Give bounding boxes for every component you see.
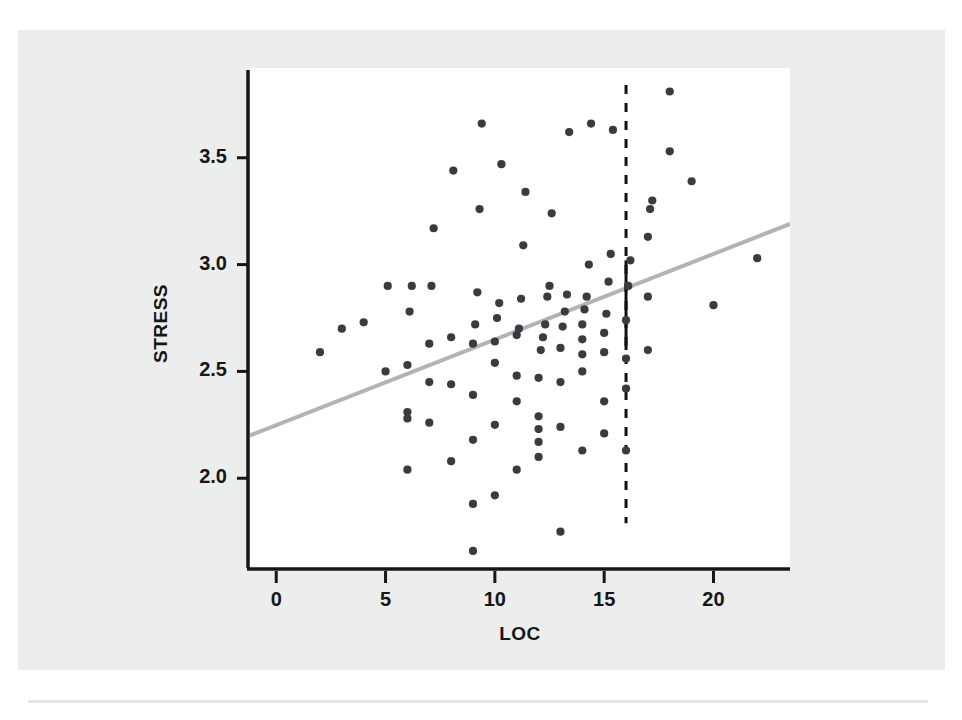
scatter-point [473, 288, 481, 296]
scatter-point [425, 340, 433, 348]
scatter-point [556, 344, 564, 352]
y-tick-label: 2.5 [135, 358, 227, 381]
scatter-point [513, 372, 521, 380]
scatter-point [548, 209, 556, 217]
scatter-point [384, 282, 392, 290]
scatter-point [406, 307, 414, 315]
scatter-point [556, 528, 564, 536]
scatter-point [513, 466, 521, 474]
scatter-point [580, 305, 588, 313]
scatter-point [600, 329, 608, 337]
scatter-point [578, 350, 586, 358]
scatter-point [316, 348, 324, 356]
scatter-point [543, 293, 551, 301]
scatter-point [648, 196, 656, 204]
scatter-point [563, 290, 571, 298]
scatter-point [666, 147, 674, 155]
scatter-point [602, 310, 610, 318]
scatter-point [478, 119, 486, 127]
scatter-point [666, 87, 674, 95]
scatter-point [622, 384, 630, 392]
plot-canvas [250, 68, 790, 568]
scatter-point [491, 359, 499, 367]
x-axis-title: LOC [420, 623, 620, 645]
scatter-point [534, 425, 542, 433]
scatter-point [578, 446, 586, 454]
scatter-point [515, 325, 523, 333]
scatter-point [556, 378, 564, 386]
scatter-point [534, 412, 542, 420]
y-tick-label: 3.0 [135, 252, 227, 275]
y-axis-title: STRESS [150, 284, 172, 363]
scatter-point [578, 335, 586, 343]
scatter-point [403, 361, 411, 369]
scatter-point [425, 378, 433, 386]
scatter-point [534, 453, 542, 461]
scatter-point [578, 367, 586, 375]
y-tick-label: 3.5 [135, 145, 227, 168]
scatter-point [644, 346, 652, 354]
scatter-point [626, 256, 634, 264]
scatter-point [517, 295, 525, 303]
scatter-point [495, 299, 503, 307]
scatter-point [491, 337, 499, 345]
scatter-point [578, 320, 586, 328]
scatter-point [559, 322, 567, 330]
scatter-point [521, 188, 529, 196]
scatter-point [447, 333, 455, 341]
y-tick-label: 2.0 [135, 465, 227, 488]
x-tick-label: 15 [564, 588, 644, 611]
scatter-point [534, 438, 542, 446]
scatter-point [469, 391, 477, 399]
scatter-point [513, 397, 521, 405]
scatter-point [338, 325, 346, 333]
scatter-point [624, 282, 632, 290]
page-divider-rule [28, 700, 928, 703]
scatter-point [491, 421, 499, 429]
scatter-point [471, 320, 479, 328]
scatter-point [430, 224, 438, 232]
scatter-point [475, 205, 483, 213]
scatter-point [622, 355, 630, 363]
scatter-point [539, 333, 547, 341]
scatter-point [587, 119, 595, 127]
scatter-point [537, 346, 545, 354]
scatter-point [609, 126, 617, 134]
scatter-point [565, 128, 573, 136]
x-tick-label: 0 [236, 588, 316, 611]
scatter-point [360, 318, 368, 326]
scatter-point [403, 408, 411, 416]
scatter-point [709, 301, 717, 309]
scatter-point [545, 282, 553, 290]
scatter-point [447, 457, 455, 465]
scatter-point [427, 282, 435, 290]
scatter-plot-svg [250, 68, 790, 568]
scatter-point [607, 250, 615, 258]
scatter-point [469, 500, 477, 508]
scatter-point [622, 316, 630, 324]
scatter-point [381, 367, 389, 375]
x-tick-label: 20 [673, 588, 753, 611]
scatter-point [600, 397, 608, 405]
scatter-point [585, 260, 593, 268]
scatter-point [425, 419, 433, 427]
scatter-point [556, 423, 564, 431]
scatter-point [519, 241, 527, 249]
scatter-point [644, 293, 652, 301]
scatter-point [493, 314, 501, 322]
scatter-point [600, 429, 608, 437]
scatter-point [622, 446, 630, 454]
scatter-point [541, 320, 549, 328]
scatter-point [753, 254, 761, 262]
figure-page: STRESS LOC 2.02.53.03.5 05101520 [0, 0, 962, 720]
scatter-point [403, 466, 411, 474]
scatter-point [469, 340, 477, 348]
scatter-point [497, 160, 505, 168]
scatter-point [600, 348, 608, 356]
x-tick-label: 5 [346, 588, 426, 611]
scatter-point [447, 380, 455, 388]
scatter-point [491, 491, 499, 499]
scatter-point [534, 374, 542, 382]
scatter-point [561, 307, 569, 315]
scatter-point [604, 278, 612, 286]
